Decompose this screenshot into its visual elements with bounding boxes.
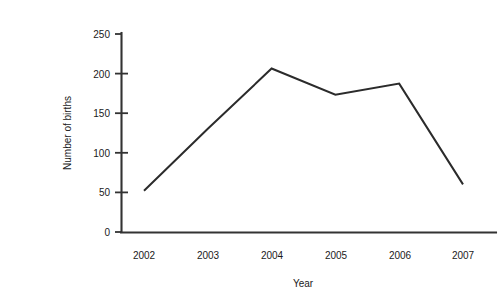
x-tick-label-2003: 2003 (197, 250, 220, 261)
x-tick-label-2006: 2006 (389, 250, 412, 261)
x-tick-label-2004: 2004 (261, 250, 284, 261)
x-tick-label-2007: 2007 (452, 250, 475, 261)
x-tick-label-2005: 2005 (325, 250, 348, 261)
y-tick-label-150: 150 (93, 108, 110, 119)
y-axis-title: Number of births (62, 96, 73, 170)
y-tick-label-200: 200 (93, 69, 110, 80)
y-tick-label-0: 0 (104, 227, 110, 238)
y-tick-label-250: 250 (93, 29, 110, 40)
chart-canvas: 250 200 150 100 50 0 2002 2003 2004 2005… (40, 16, 502, 287)
y-tick-label-50: 50 (99, 187, 111, 198)
x-tick-label-2002: 2002 (133, 250, 156, 261)
line-chart-figure: 250 200 150 100 50 0 2002 2003 2004 2005… (40, 16, 502, 287)
x-axis-title: Year (293, 278, 314, 287)
y-tick-label-100: 100 (93, 148, 110, 159)
